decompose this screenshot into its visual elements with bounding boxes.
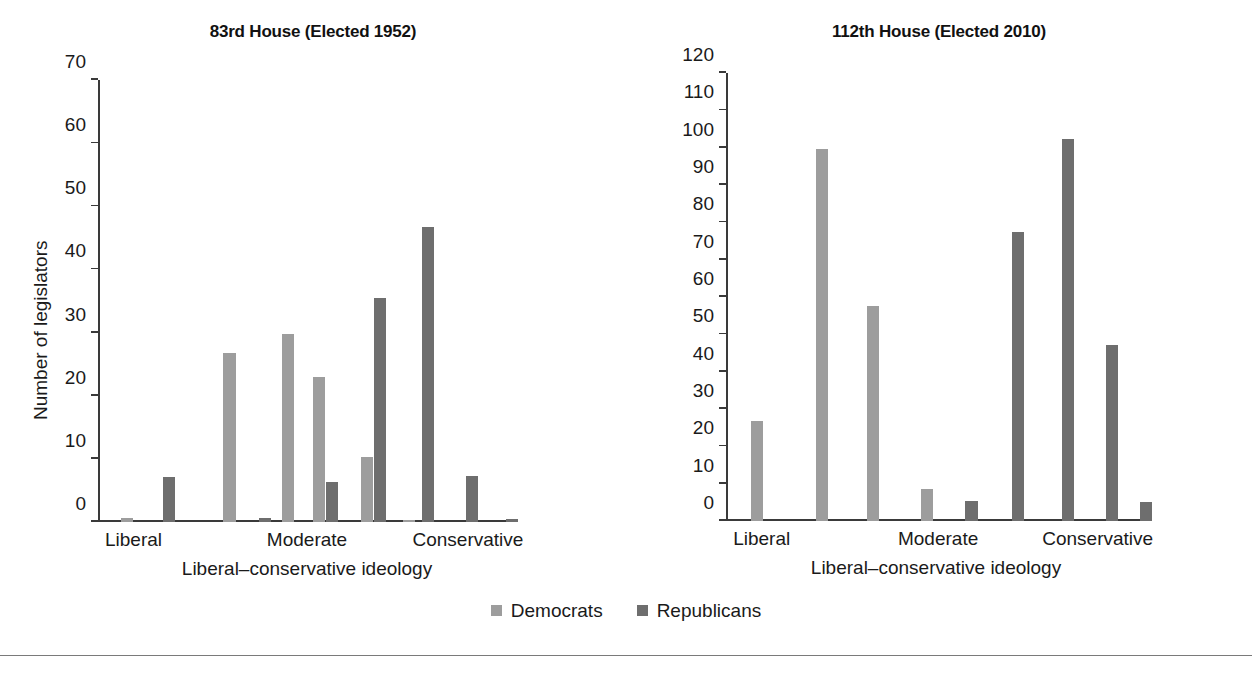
y-axis-tick-112th-30 <box>719 407 726 409</box>
bar-112th-democrats-1 <box>816 149 828 521</box>
x-axis-category-label-112th-moderate: Moderate <box>898 528 978 550</box>
x-axis-category-label-112th-liberal: Liberal <box>733 528 790 550</box>
y-axis-tick-112th-90 <box>719 183 726 185</box>
bar-112th-republicans-8 <box>1140 502 1152 521</box>
y-axis-tick-112th-100 <box>719 146 726 148</box>
y-axis-tick-label-83rd-70: 70 <box>65 52 86 71</box>
legend-label-republicans: Republicans <box>657 601 762 620</box>
bar-83rd-republicans-7 <box>374 298 386 522</box>
bar-83rd-democrats-2 <box>223 353 235 522</box>
y-axis-tick-label-83rd-60: 60 <box>65 115 86 134</box>
legend-label-democrats: Democrats <box>511 601 603 620</box>
y-axis-tick-112th-70 <box>719 258 726 260</box>
figure-page: 83rd House (Elected 1952) Number of legi… <box>0 0 1252 680</box>
x-axis-category-label-112th-conservative: Conservative <box>1042 528 1153 550</box>
y-axis-tick-83rd-0 <box>91 520 98 522</box>
y-axis-tick-83rd-50 <box>91 205 98 207</box>
bar-112th-republicans-6 <box>1062 139 1074 521</box>
y-axis-tick-112th-80 <box>719 221 726 223</box>
y-axis-title-left: Number of legislators <box>30 240 52 420</box>
y-axis-tick-112th-110 <box>719 109 726 111</box>
bar-group-83rd <box>98 80 516 522</box>
y-axis-tick-label-112th-0: 0 <box>703 493 714 512</box>
chart-title-112th: 112th House (Elected 2010) <box>626 22 1252 42</box>
y-axis-tick-label-83rd-0: 0 <box>75 494 86 513</box>
x-axis-category-label-83rd-conservative: Conservative <box>412 529 523 551</box>
y-axis-tick-label-83rd-50: 50 <box>65 178 86 197</box>
x-axis-category-label-83rd-moderate: Moderate <box>267 529 347 551</box>
plot-area-112th: Liberal–conservative ideology 0102030405… <box>726 73 1146 521</box>
footer-divider <box>0 655 1252 656</box>
y-axis-tick-112th-10 <box>719 482 726 484</box>
chart-panel-83rd-house: 83rd House (Elected 1952) Number of legi… <box>0 0 626 600</box>
y-axis-tick-112th-20 <box>719 445 726 447</box>
bar-83rd-democrats-8 <box>361 457 373 522</box>
y-axis-tick-label-83rd-30: 30 <box>65 304 86 323</box>
bar-83rd-republicans-9 <box>422 227 434 523</box>
y-axis-tick-label-112th-70: 70 <box>693 231 714 250</box>
bar-83rd-republicans-5 <box>326 482 338 522</box>
square-swatch-icon <box>491 605 502 616</box>
y-axis-tick-83rd-20 <box>91 394 98 396</box>
bar-83rd-republicans-11 <box>466 476 478 522</box>
square-swatch-icon <box>637 605 648 616</box>
y-axis-tick-label-83rd-20: 20 <box>65 367 86 386</box>
bar-112th-republicans-7 <box>1106 345 1118 521</box>
bar-83rd-republicans-1 <box>163 477 175 522</box>
y-axis-tick-112th-0 <box>719 519 726 521</box>
chart-legend: DemocratsRepublicans <box>0 601 1252 620</box>
y-axis-tick-label-83rd-10: 10 <box>65 430 86 449</box>
bar-83rd-democrats-10 <box>403 520 415 522</box>
y-axis-tick-label-112th-80: 80 <box>693 194 714 213</box>
x-axis-category-label-83rd-liberal: Liberal <box>105 529 162 551</box>
bar-112th-democrats-2 <box>867 306 879 521</box>
legend-item-democrats: Democrats <box>491 601 603 620</box>
plot-area-83rd: Liberal–conservative ideology 0102030405… <box>98 80 516 522</box>
y-axis-tick-label-112th-50: 50 <box>693 306 714 325</box>
bar-112th-republicans-5 <box>1012 232 1024 521</box>
y-axis-tick-83rd-40 <box>91 268 98 270</box>
y-axis-tick-83rd-10 <box>91 457 98 459</box>
y-axis-tick-112th-40 <box>719 370 726 372</box>
y-axis-tick-label-112th-40: 40 <box>693 343 714 362</box>
y-axis-tick-label-112th-10: 10 <box>693 455 714 474</box>
y-axis-tick-112th-120 <box>719 71 726 73</box>
y-axis-tick-112th-50 <box>719 333 726 335</box>
bar-112th-democrats-0 <box>751 421 763 521</box>
y-axis-tick-label-112th-30: 30 <box>693 381 714 400</box>
bar-83rd-republicans-12 <box>506 519 518 522</box>
y-axis-tick-label-112th-90: 90 <box>693 157 714 176</box>
y-axis-tick-label-112th-100: 100 <box>682 119 714 138</box>
x-axis-title-left: Liberal–conservative ideology <box>182 558 432 580</box>
chart-title-83rd: 83rd House (Elected 1952) <box>0 22 626 42</box>
y-axis-tick-83rd-60 <box>91 142 98 144</box>
y-axis-tick-112th-60 <box>719 295 726 297</box>
legend-item-republicans: Republicans <box>637 601 762 620</box>
bar-112th-republicans-4 <box>965 501 977 521</box>
y-axis-tick-label-112th-60: 60 <box>693 269 714 288</box>
bar-83rd-democrats-4 <box>282 334 294 522</box>
y-axis-tick-83rd-30 <box>91 331 98 333</box>
bar-83rd-democrats-6 <box>313 377 325 522</box>
x-axis-title-right: Liberal–conservative ideology <box>811 557 1061 579</box>
y-axis-tick-label-112th-120: 120 <box>682 45 714 64</box>
y-axis-tick-label-112th-20: 20 <box>693 418 714 437</box>
y-axis-tick-label-83rd-40: 40 <box>65 241 86 260</box>
bar-83rd-republicans-3 <box>259 518 271 522</box>
bar-112th-democrats-3 <box>921 489 933 521</box>
bar-group-112th <box>726 73 1146 521</box>
y-axis-tick-83rd-70 <box>91 78 98 80</box>
chart-panel-112th-house: 112th House (Elected 2010) Number of leg… <box>626 0 1252 600</box>
y-axis-tick-label-112th-110: 110 <box>684 82 714 101</box>
bar-83rd-democrats-0 <box>121 518 133 522</box>
